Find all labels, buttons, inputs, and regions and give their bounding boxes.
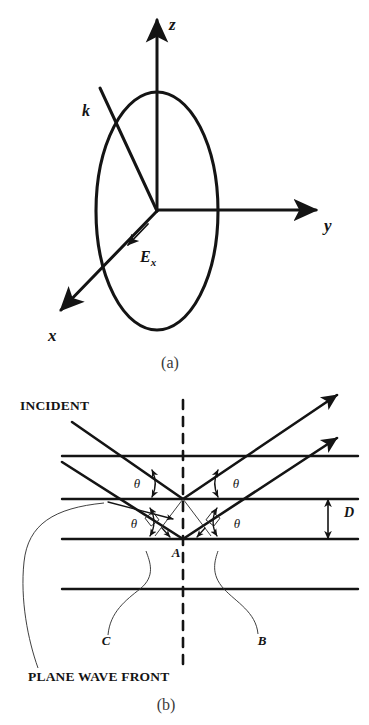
- panel-a-group: z y x k Ex (a): [47, 15, 332, 372]
- e-field-label-sub: x: [150, 256, 157, 268]
- figure-svg: z y x k Ex (a): [0, 0, 369, 725]
- theta-label-upper-left: θ: [134, 476, 141, 491]
- x-axis-label: x: [47, 326, 57, 345]
- leader-curve-c: [108, 551, 151, 635]
- plane-wave-front-label: PLANE WAVE FRONT: [28, 669, 169, 684]
- theta-label-upper-right: θ: [233, 476, 240, 491]
- e-field-arrow: [128, 224, 148, 245]
- k-vector-label: k: [82, 102, 90, 119]
- leader-curve-plane-wave-front: [23, 503, 104, 668]
- wavefront-segment-arrow: [108, 502, 173, 519]
- e-field-label-base: E: [139, 248, 151, 265]
- point-a-label: A: [171, 545, 181, 560]
- panel-a-caption: (a): [161, 354, 179, 372]
- leader-curve-b: [215, 551, 258, 634]
- y-axis-label: y: [322, 216, 332, 235]
- theta-arc-upper-left: [152, 470, 155, 497]
- incident-ray-lower: [62, 462, 183, 539]
- theta-arc-upper-right: [215, 470, 218, 497]
- theta-label-lower-left: θ: [131, 516, 138, 531]
- point-b-label: B: [257, 633, 267, 648]
- e-field-label: Ex: [139, 248, 157, 268]
- incident-ray-upper: [72, 422, 183, 499]
- theta-label-lower-right: θ: [234, 516, 241, 531]
- figure-root: z y x k Ex (a): [0, 0, 369, 725]
- theta-arc-lower-right: [213, 508, 217, 536]
- point-c-label: C: [102, 633, 111, 648]
- panel-b-caption: (b): [157, 696, 176, 714]
- reflected-ray-upper: [183, 395, 337, 499]
- thickness-label: D: [343, 505, 354, 520]
- incident-label: INCIDENT: [20, 398, 89, 413]
- panel-b-group: INCIDENT θ θ θ θ D A C B PLANE WAVE FRON…: [20, 395, 358, 714]
- z-axis-label: z: [168, 15, 176, 34]
- reflected-ray-lower: [183, 438, 337, 539]
